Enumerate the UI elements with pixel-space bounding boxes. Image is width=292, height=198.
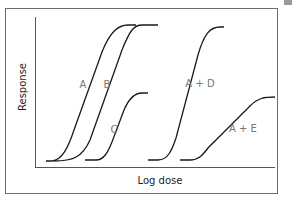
figure-frame [6,9,278,194]
dose-response-chart [0,0,292,198]
y-axis-label: Response [17,63,28,111]
x-axis-label: Log dose [138,175,183,186]
curve-label-a-plus-e: A + E [229,123,257,134]
curve-label-a-plus-d: A + D [185,78,214,89]
curve-a-plus-e [180,97,275,160]
curve-a-plus-d [148,27,224,160]
curve-label-b: B [104,79,111,90]
curve-label-a: A [80,79,87,90]
dose-response-figure: Response Log dose A B C A + D A + E [0,0,292,198]
curve-a [46,25,136,161]
curve-label-c: C [111,124,118,135]
